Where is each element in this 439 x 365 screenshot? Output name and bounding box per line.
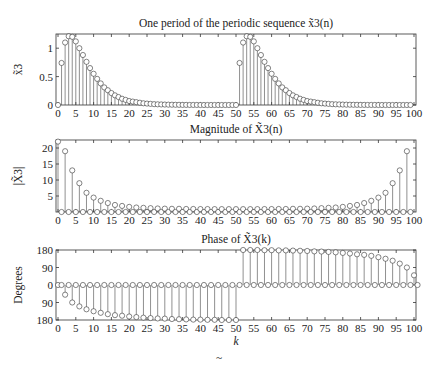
stem-marker	[77, 181, 82, 186]
x-tick-label: 30	[159, 107, 171, 119]
stem-marker	[127, 204, 132, 209]
stem-marker	[77, 46, 82, 51]
x-tick-label: 80	[337, 107, 349, 119]
x-tick-label: 45	[213, 214, 225, 226]
stem-marker	[347, 251, 352, 256]
x-tick-label: 40	[195, 322, 207, 334]
stem-marker	[73, 282, 78, 287]
x-tick-label: 60	[266, 214, 278, 226]
stem-marker	[223, 282, 228, 287]
stem-marker	[155, 316, 160, 321]
x-tick-label: 0	[55, 107, 61, 119]
stem-marker	[248, 247, 253, 252]
stem-marker	[80, 209, 85, 214]
stem-marker	[287, 282, 292, 287]
x-tick-label: 35	[177, 107, 189, 119]
plot-title: Phase of X̃3(k)	[201, 232, 271, 246]
stem-marker	[137, 282, 142, 287]
stem-marker	[119, 313, 124, 318]
stem-marker	[84, 190, 89, 195]
stem-marker	[383, 256, 388, 261]
stem-marker	[408, 282, 413, 287]
stem-marker	[130, 209, 135, 214]
x-tick-label: 80	[337, 322, 349, 334]
y-axis-label: |X̃3|	[11, 167, 25, 186]
stem-marker	[372, 209, 377, 214]
stem-marker	[269, 71, 274, 76]
stem-marker	[362, 200, 367, 205]
y-tick-label: 180	[37, 314, 54, 326]
stem-marker	[383, 190, 388, 195]
stem-marker	[152, 282, 157, 287]
stem-marker	[362, 252, 367, 257]
plot-magnitude: Magnitude of X̃3(n)051015202530354045505…	[11, 122, 423, 226]
x-tick-label: 100	[406, 214, 423, 226]
y-tick-label: 10	[42, 174, 54, 186]
stem-marker	[230, 282, 235, 287]
x-tick-label: 15	[106, 322, 118, 334]
stem-marker	[70, 168, 75, 173]
stem-marker	[347, 203, 352, 208]
stem-marker	[330, 282, 335, 287]
stem-marker	[397, 261, 402, 266]
stem-marker	[244, 282, 249, 287]
stem-marker	[66, 209, 71, 214]
x-tick-label: 10	[88, 214, 100, 226]
stem-marker	[87, 65, 92, 70]
stem-marker	[77, 304, 82, 309]
stem-marker	[265, 65, 270, 70]
x-tick-label: 45	[213, 107, 225, 119]
stem-marker	[102, 282, 107, 287]
stem-marker	[404, 149, 409, 154]
stem-marker	[141, 315, 146, 320]
stem-marker	[59, 209, 64, 214]
stem-marker	[233, 317, 238, 322]
y-tick-label: 180	[37, 244, 54, 256]
stem-marker	[251, 39, 256, 44]
stem-marker	[70, 34, 75, 39]
stem-marker	[109, 282, 114, 287]
stem-marker	[95, 209, 100, 214]
stem-marker	[333, 250, 338, 255]
stem-marker	[169, 316, 174, 321]
y-tick-label: 90	[42, 297, 54, 309]
x-tick-label: 20	[124, 322, 136, 334]
x-tick-label: 95	[391, 214, 403, 226]
y-tick-label: 0	[48, 279, 54, 291]
stem-marker	[123, 209, 128, 214]
x-tick-label: 70	[302, 107, 314, 119]
y-tick-label: 5	[48, 190, 54, 202]
stem-marker	[386, 209, 391, 214]
stem-marker	[319, 249, 324, 254]
stem-marker	[233, 102, 238, 107]
stem-marker	[187, 282, 192, 287]
stem-marker	[73, 39, 78, 44]
stem-marker	[112, 313, 117, 318]
stem-marker	[87, 282, 92, 287]
stem-marker	[411, 273, 416, 278]
stem-marker	[166, 282, 171, 287]
stem-marker	[159, 282, 164, 287]
x-tick-label: 100	[406, 322, 423, 334]
stem-marker	[390, 258, 395, 263]
stem-marker	[109, 209, 114, 214]
stem-marker	[55, 139, 60, 144]
stem-marker	[127, 314, 132, 319]
x-tick-label: 95	[391, 322, 403, 334]
stem-marker	[216, 282, 221, 287]
stem-marker	[340, 204, 345, 209]
stem-marker	[105, 200, 110, 205]
stem-marker	[379, 209, 384, 214]
stem-marker	[237, 60, 242, 65]
stem-marker	[80, 282, 85, 287]
stem-marker	[408, 209, 413, 214]
stem-marker	[119, 203, 124, 208]
stem-marker	[358, 282, 363, 287]
x-tick-label: 5	[73, 107, 79, 119]
x-tick-label: 25	[142, 322, 154, 334]
stem-marker	[365, 282, 370, 287]
stem-marker	[180, 282, 185, 287]
stem-marker	[91, 195, 96, 200]
x-tick-label: 100	[406, 107, 423, 119]
x-tick-label: 75	[320, 214, 332, 226]
